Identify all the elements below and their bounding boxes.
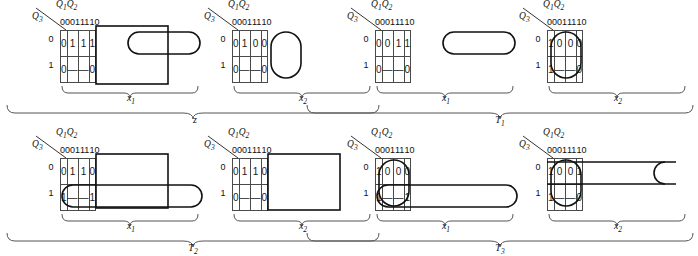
row-header: 1 — [360, 60, 372, 70]
column-header: 10 — [576, 17, 586, 27]
column-header: 00 — [60, 17, 70, 27]
column-header: 11 — [252, 145, 261, 155]
kmap-cell: 0 — [404, 159, 411, 185]
group-label-T2: T2 — [163, 242, 223, 256]
column-header: 01 — [70, 17, 80, 27]
row-header: 0 — [217, 34, 229, 44]
kmap-cell: 0 — [554, 31, 565, 57]
kmap-cell: 1 — [576, 159, 583, 185]
column-header: 10 — [89, 17, 99, 27]
column-header: 00 — [375, 145, 385, 155]
row-header: 1 — [45, 188, 57, 198]
column-header: 01 — [70, 145, 80, 155]
kmap-cell: — — [78, 185, 89, 211]
group-label-T3: T3 — [470, 242, 530, 256]
column-header: 10 — [576, 145, 586, 155]
table-row: 0 — — 0 — [376, 57, 411, 83]
kmap-cell: 1 — [78, 31, 89, 57]
row-header: 1 — [217, 188, 229, 198]
column-header: 01 — [242, 145, 252, 155]
row-header: 1 — [45, 60, 57, 70]
row-variable-label: Q3 — [347, 139, 358, 152]
column-header: 00 — [232, 17, 242, 27]
column-variable-label: Q1Q2 — [56, 127, 77, 140]
kmap-cell: — — [382, 57, 393, 83]
column-variable-label: Q1Q2 — [228, 0, 249, 12]
column-header: 10 — [261, 145, 271, 155]
kmap-grid: 1 0 0 0 1 — — 1 — [375, 158, 411, 211]
row-variable-label: Q3 — [204, 11, 215, 24]
kmap-cell: — — [78, 57, 89, 83]
row-header: 0 — [217, 162, 229, 172]
kmap-cell: 1 — [67, 31, 78, 57]
table-row: 1 — — 0 — [548, 57, 583, 83]
kmap-cell: 0 — [261, 185, 268, 211]
kmap-cell: 0 — [261, 159, 268, 185]
kmap-cell: 1 — [89, 185, 96, 211]
column-header: 01 — [242, 17, 252, 27]
column-variable-label: Q1Q2 — [228, 127, 249, 140]
column-header: 01 — [385, 17, 395, 27]
kmap-cell: 1 — [67, 159, 78, 185]
kmap-cell: — — [565, 57, 576, 83]
kmap-grid: 0 1 1 0 1 — — 1 — [60, 158, 96, 211]
kmap-cell: 1 — [404, 31, 411, 57]
kmap-cell: 0 — [576, 185, 583, 211]
column-header: 00 — [60, 145, 70, 155]
column-header: 01 — [385, 145, 395, 155]
row-variable-label: Q3 — [347, 11, 358, 24]
table-row: 0 1 0 0 — [233, 31, 268, 57]
kmap-cell: 1 — [239, 159, 250, 185]
row-header: 0 — [360, 162, 372, 172]
kmap-cell: — — [250, 185, 261, 211]
column-header: 00 — [547, 145, 557, 155]
kmap-cell: 0 — [89, 159, 96, 185]
table-row: 0 1 1 1 — [61, 31, 96, 57]
row-header: 1 — [532, 60, 544, 70]
kmap-cell: — — [565, 185, 576, 211]
kmap-grid: 0 1 1 0 0 — — 0 — [232, 158, 268, 211]
kmap-grid: 0 0 1 1 0 — — 0 — [375, 30, 411, 83]
table-row: 0 — — 0 — [233, 185, 268, 211]
kmap-cell: 1 — [89, 31, 96, 57]
kmap-cell: 1 — [404, 185, 411, 211]
column-header: 10 — [89, 145, 99, 155]
group-label-z: z — [165, 114, 225, 128]
kmap-cell: 1 — [239, 31, 250, 57]
row-header: 0 — [45, 34, 57, 44]
kmap-grid: 0 1 1 1 0 — — 0 — [60, 30, 96, 83]
kmap-cell: 0 — [261, 31, 268, 57]
row-header: 0 — [532, 34, 544, 44]
kmap-cell: 1 — [250, 159, 261, 185]
row-header: 0 — [532, 162, 544, 172]
kmap-cell: 0 — [382, 31, 393, 57]
kmap-cell: 0 — [89, 57, 96, 83]
table-row: 1 0 0 0 — [376, 159, 411, 185]
column-header: 00 — [547, 17, 557, 27]
column-header: 00 — [375, 17, 385, 27]
column-variable-label: Q1Q2 — [543, 127, 564, 140]
kmap-cell: — — [393, 57, 404, 83]
row-header: 0 — [45, 162, 57, 172]
table-row: 1 0 0 1 — [548, 159, 583, 185]
kmap-cell: — — [554, 57, 565, 83]
column-variable-label: Q1Q2 — [56, 0, 77, 12]
kmap-cell: 0 — [554, 159, 565, 185]
kmap-grid: 1 0 0 0 1 — — 0 — [547, 30, 583, 83]
column-header: 10 — [261, 17, 271, 27]
table-row: 1 — — 0 — [548, 185, 583, 211]
kmap-cell: 0 — [565, 31, 576, 57]
column-header: 00 — [232, 145, 242, 155]
row-header: 1 — [360, 188, 372, 198]
column-header: 10 — [404, 17, 414, 27]
column-header: 11 — [567, 145, 576, 155]
kmap-cell: 0 — [404, 57, 411, 83]
kmap-cell: — — [554, 185, 565, 211]
column-header: 01 — [557, 145, 567, 155]
table-row: 1 0 0 0 — [548, 31, 583, 57]
kmap-cell: — — [393, 185, 404, 211]
row-variable-label: Q3 — [32, 139, 43, 152]
kmap-cell: — — [67, 57, 78, 83]
table-row: 0 — — 0 — [233, 57, 268, 83]
kmap-cell: 0 — [382, 159, 393, 185]
